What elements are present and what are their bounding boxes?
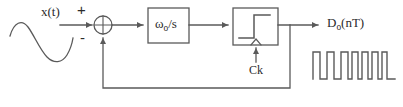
clock-label: Ck [249,64,263,76]
input-sine-waveform [10,23,73,62]
integrator-omega: ω [155,16,164,31]
integrator-block-label: ωo/s [155,17,177,33]
integrator-denominator: /s [168,16,177,31]
block-diagram-canvas: x(t) + - ωo/s Ck Do(nT) [0,0,403,107]
output-signal-label: Do(nT) [327,16,364,32]
sum-minus-sign: - [80,30,85,45]
output-pulse-train-waveform [313,52,395,79]
output-argument: (nT) [341,15,364,30]
feedback-path [103,25,290,88]
clock-triangle-icon [251,39,261,45]
step-function-icon [239,15,270,38]
output-d: D [327,15,336,30]
input-signal-label: x(t) [41,5,60,18]
sum-plus-sign: + [77,2,86,17]
